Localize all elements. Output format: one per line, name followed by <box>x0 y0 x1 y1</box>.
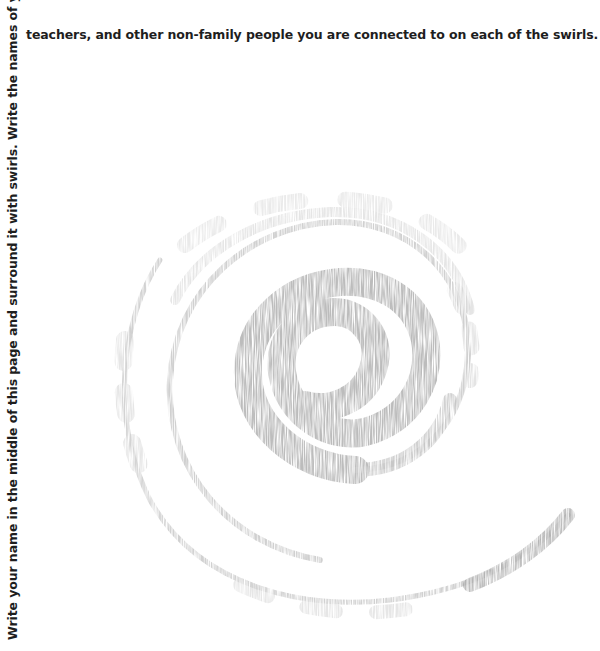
spiral-swirl-icon <box>0 0 600 651</box>
